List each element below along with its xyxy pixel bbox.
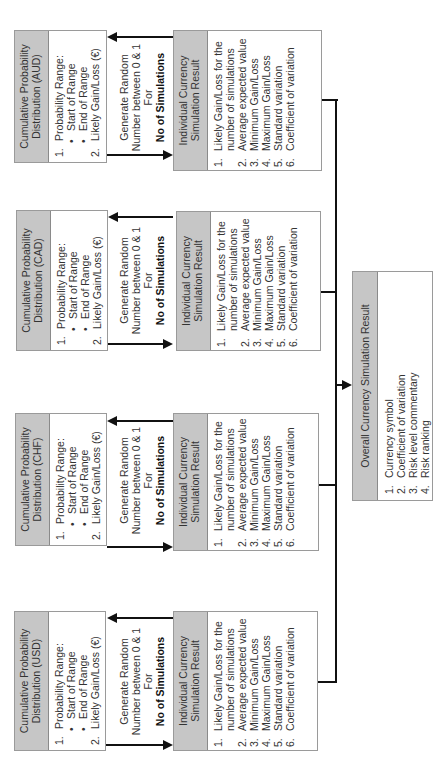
arrow-right-icon xyxy=(342,380,352,390)
list-item: 3.Minimum Gain/Loss xyxy=(248,612,260,747)
list-item: •End of Range xyxy=(79,211,91,345)
list-item: number of simulations xyxy=(224,612,236,747)
list-item: 6.Coefficient of variation xyxy=(287,212,299,347)
forward-line-aud xyxy=(107,154,165,156)
forward-line-cad xyxy=(108,343,165,345)
list-item: 6.Coefficient of variation xyxy=(284,31,296,167)
list-item: 3.Minimum Gain/Loss xyxy=(248,31,260,167)
feedback-line-aud xyxy=(115,36,173,38)
list-item: 1.Probability Range: xyxy=(54,414,66,540)
distribution-list-chf: 1.Probability Range: •Start of Range •En… xyxy=(54,414,102,540)
list-item: 2.Average expected value xyxy=(239,212,251,347)
list-item: 6.Coefficient of variation xyxy=(284,612,296,747)
distribution-title-line1: Cumulative Probability xyxy=(18,31,30,162)
list-item: 4.Maximum Gain/Loss xyxy=(263,212,275,347)
connector-chf xyxy=(319,484,336,486)
connector-usd xyxy=(318,681,336,683)
collector-bus-line xyxy=(335,99,337,683)
list-item: •Start of Range xyxy=(66,414,78,540)
distribution-list-cad: 1.Probability Range: •Start of Range •En… xyxy=(55,211,103,345)
list-item: 2.Average expected value xyxy=(236,31,248,167)
list-item: 5.Standard variation xyxy=(272,31,284,167)
list-item: 1.Probability Range: xyxy=(55,211,67,345)
list-item: 2.Average expected value xyxy=(236,414,248,547)
list-item: 1.Likely Gain/Loss for the xyxy=(215,212,227,347)
arrow-right-icon xyxy=(163,740,173,750)
result-box-cad: Individual CurrencySimulation Result 1.L… xyxy=(176,211,321,351)
list-item: 4.Risk ranking xyxy=(419,354,431,494)
list-item: 2.Likely Gain/Loss (€) xyxy=(89,31,101,157)
list-item: 2.Average expected value xyxy=(236,612,248,747)
distribution-list-usd: 1.Probability Range: •Start of Range •En… xyxy=(53,612,101,745)
arrow-left-icon xyxy=(107,32,117,42)
list-item: 5.Standard variation xyxy=(275,212,287,347)
feedback-line-usd xyxy=(115,617,173,619)
list-item: 4.Maximum Gain/Loss xyxy=(260,612,272,747)
list-item: •Start of Range xyxy=(65,612,77,745)
result-box-usd: Individual CurrencySimulation Result 1.L… xyxy=(173,611,318,751)
list-item: 1.Likely Gain/Loss for the xyxy=(212,612,224,747)
list-item: 5.Standard variation xyxy=(272,414,284,547)
list-item: •End of Range xyxy=(78,414,90,540)
list-item: number of simulations xyxy=(227,212,239,347)
list-item: •Start of Range xyxy=(67,211,79,345)
arrow-right-icon xyxy=(163,150,173,160)
result-header-aud: Individual CurrencySimulation Result xyxy=(174,31,208,170)
list-item: number of simulations xyxy=(224,31,236,167)
list-item: 3.Minimum Gain/Loss xyxy=(248,414,260,547)
result-box-aud: Individual CurrencySimulation Result 1.L… xyxy=(173,30,322,171)
distribution-box-chf: Cumulative Probability Distribution (CHF… xyxy=(15,413,107,546)
forward-line-usd xyxy=(106,744,165,746)
list-item: number of simulations xyxy=(224,414,236,547)
list-item: 1.Currency symbol xyxy=(383,354,395,494)
result-header-usd: Individual CurrencySimulation Result xyxy=(174,612,208,750)
arrow-left-icon xyxy=(108,212,118,222)
list-item: 3.Minimum Gain/Loss xyxy=(251,212,263,347)
list-item: 2.Coefficient of variation xyxy=(395,354,407,494)
feedback-line-chf xyxy=(115,420,173,422)
distribution-box-aud: Cumulative Probability Distribution (AUD… xyxy=(14,30,107,163)
generator-label-usd: Generate RandomNumber between 0 & 1ForNo… xyxy=(118,619,166,744)
distribution-box-cad: Cumulative Probability Distribution (CAD… xyxy=(16,210,108,351)
list-item: 1.Probability Range: xyxy=(53,612,65,745)
list-item: 2.Likely Gain/Loss (€) xyxy=(90,414,102,540)
result-list-aud: 1.Likely Gain/Loss for the number of sim… xyxy=(212,31,296,167)
list-item: 5.Standard variation xyxy=(272,612,284,747)
arrow-right-icon xyxy=(163,542,173,552)
list-item: •Start of Range xyxy=(65,31,77,157)
generator-label-cad: Generate RandomNumber between 0 & 1ForNo… xyxy=(118,218,166,343)
list-item: 1.Likely Gain/Loss for the xyxy=(212,31,224,167)
forward-line-chf xyxy=(107,546,165,548)
list-item: 4.Maximum Gain/Loss xyxy=(260,31,272,167)
distribution-title-line2: Distribution (AUD) xyxy=(30,31,42,162)
list-item: 2.Likely Gain/Loss (€) xyxy=(89,612,101,745)
distribution-list-aud: 1.Probability Range: •Start of Range •En… xyxy=(53,31,101,157)
result-header-cad: Individual CurrencySimulation Result xyxy=(177,212,211,350)
overall-title: Overall Currency Simulation Result xyxy=(359,276,371,496)
distribution-header-cad: Cumulative Probability Distribution (CAD… xyxy=(17,211,51,350)
arrow-right-icon xyxy=(163,339,173,349)
list-item: 6.Coefficient of variation xyxy=(284,414,296,547)
list-item: 3.Risk level commentary xyxy=(407,354,419,494)
list-item: •End of Range xyxy=(77,612,89,745)
distribution-header-usd: Cumulative Probability Distribution (USD… xyxy=(15,612,49,750)
list-item: 2.Likely Gain/Loss (€) xyxy=(91,211,103,345)
feedback-line-cad xyxy=(116,216,173,218)
result-header-chf: Individual CurrencySimulation Result xyxy=(174,414,208,550)
list-item: 1.Probability Range: xyxy=(53,31,65,157)
result-list-chf: 1.Likely Gain/Loss for the number of sim… xyxy=(212,414,296,547)
result-box-chf: Individual CurrencySimulation Result 1.L… xyxy=(173,413,319,551)
result-list-cad: 1.Likely Gain/Loss for the number of sim… xyxy=(215,212,299,347)
overall-list: 1.Currency symbol 2.Coefficient of varia… xyxy=(383,354,431,494)
distribution-box-usd: Cumulative Probability Distribution (USD… xyxy=(14,611,106,751)
overall-header: Overall Currency Simulation Result xyxy=(353,272,378,500)
generator-label-chf: Generate RandomNumber between 0 & 1ForNo… xyxy=(118,418,166,543)
generator-label-aud: Generate RandomNumber between 0 & 1ForNo… xyxy=(118,35,166,160)
arrow-left-icon xyxy=(107,416,117,426)
list-item: 1.Likely Gain/Loss for the xyxy=(212,414,224,547)
list-item: •End of Range xyxy=(77,31,89,157)
list-item: 4.Maximum Gain/Loss xyxy=(260,414,272,547)
distribution-header-aud: Cumulative Probability Distribution (AUD… xyxy=(15,31,49,162)
result-list-usd: 1.Likely Gain/Loss for the number of sim… xyxy=(212,612,296,747)
overall-result-box: Overall Currency Simulation Result 1.Cur… xyxy=(352,271,433,501)
